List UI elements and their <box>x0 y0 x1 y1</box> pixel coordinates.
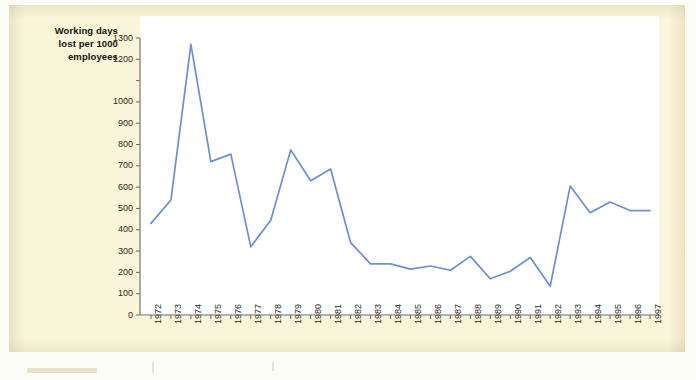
series-line-layer <box>0 0 696 380</box>
scan-artifact-left <box>27 368 97 373</box>
figure-root: Working days lost per 1000 employees 130… <box>0 0 696 380</box>
scan-artifact-tick-2 <box>272 362 274 371</box>
scan-artifact-tick-1 <box>152 362 154 373</box>
series-line <box>151 44 650 286</box>
